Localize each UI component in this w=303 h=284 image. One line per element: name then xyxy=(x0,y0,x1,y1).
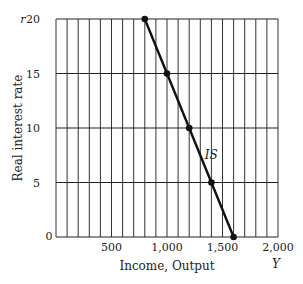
x-tick-label: 1,000 xyxy=(151,241,183,254)
is-curve-point xyxy=(164,70,171,77)
is-curve-point xyxy=(230,234,237,241)
x-axis-label: Income, Output xyxy=(119,259,214,273)
is-curve-chart: 510152005001,0001,5002,000rYIncome, Outp… xyxy=(0,0,303,284)
is-curve-point xyxy=(186,125,193,132)
y-tick-label: 5 xyxy=(33,177,40,190)
y-axis-label: Real interest rate xyxy=(11,75,25,182)
y-tick-label-zero: 0 xyxy=(46,230,53,243)
y-tick-label: 15 xyxy=(26,68,40,81)
x-tick-label: 500 xyxy=(101,241,122,254)
is-curve-point xyxy=(208,179,215,186)
x-tick-label: 1,500 xyxy=(207,241,239,254)
x-axis-symbol: Y xyxy=(272,257,281,271)
y-axis-symbol: r xyxy=(20,13,26,26)
is-curve-annotation: IS xyxy=(204,148,218,162)
y-tick-label: 10 xyxy=(26,122,40,135)
is-curve-point xyxy=(142,16,149,23)
x-tick-label: 2,000 xyxy=(262,241,294,254)
y-tick-label: 20 xyxy=(26,13,40,26)
